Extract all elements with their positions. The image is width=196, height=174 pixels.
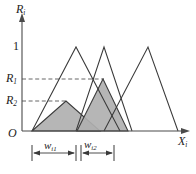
- dimension-2-arrow-left: [82, 151, 89, 156]
- dimension-1-arrow-left: [33, 151, 40, 156]
- dimension-1-label: wi1: [44, 140, 57, 151]
- dimension-2-label-subscript: i2: [91, 144, 96, 151]
- y-tick-r2-subscript: 2: [13, 99, 17, 108]
- dimension-2-label: wi2: [84, 139, 97, 150]
- y-tick-label-one: 1: [13, 40, 19, 52]
- y-tick-r1-subscript: 1: [13, 77, 17, 86]
- y-axis-label: Ri: [16, 3, 25, 15]
- y-tick-label-r1: R1: [6, 72, 17, 84]
- shaded-region-group: [32, 79, 128, 131]
- x-axis-label: Xi: [178, 135, 187, 147]
- figure-canvas: [0, 0, 196, 174]
- fuzzy-membership-figure: Ri 1 R1 R2 O Xi wi1 wi2: [0, 0, 196, 174]
- y-tick-label-r2: R2: [6, 94, 17, 106]
- dimension-2-arrow-right: [106, 151, 113, 156]
- origin-label: O: [8, 127, 17, 139]
- dimension-1-label-subscript: i1: [51, 145, 56, 152]
- dimension-1-arrow-right: [68, 151, 75, 156]
